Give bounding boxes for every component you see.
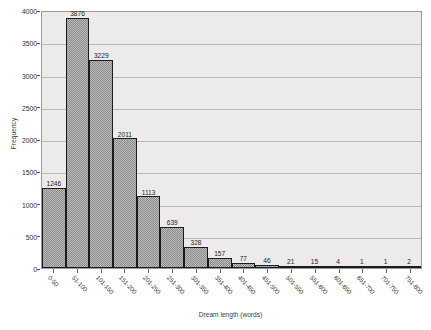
bar-value-label: 328 (190, 240, 201, 247)
y-axis-tick-mark (37, 269, 40, 270)
x-axis-label-slot: 751-800 (398, 274, 422, 316)
y-axis-tick-mark (37, 236, 40, 237)
bar-value-label: 2 (407, 259, 411, 266)
bar-value-label: 1 (384, 259, 388, 266)
x-axis-label-slot: 651-700 (351, 274, 375, 316)
bar-slot: 15 (303, 12, 327, 268)
bar-value-label: 15 (311, 259, 318, 266)
x-axis-tick-labels: 0-5051-100101-150151-200201-250251-30030… (41, 274, 422, 316)
bar[interactable]: 46 (255, 265, 279, 268)
x-axis-label-slot: 201-250 (136, 274, 160, 316)
bar-value-label: 21 (287, 259, 294, 266)
y-axis-tick-mark (37, 140, 40, 141)
bar[interactable]: 2011 (113, 138, 137, 268)
bar[interactable]: 15 (303, 266, 327, 268)
x-axis-label-slot: 101-150 (89, 274, 113, 316)
x-axis-tick-mark (267, 269, 268, 273)
x-axis-label-slot: 251-300 (160, 274, 184, 316)
x-axis-label-slot: 401-450 (232, 274, 256, 316)
y-axis-tick-label: 2000 (22, 137, 37, 144)
bar[interactable]: 328 (184, 247, 208, 268)
x-axis-label-slot: 701-750 (374, 274, 398, 316)
x-axis-title: Dream length (words) (0, 311, 431, 318)
bar-value-label: 1 (360, 259, 364, 266)
bar-value-label: 3229 (94, 53, 109, 60)
bar-slot: 157 (208, 12, 232, 268)
y-axis-tick-mark (37, 204, 40, 205)
bar-slot: 1246 (42, 12, 66, 268)
bar-value-label: 1246 (47, 181, 62, 188)
bar[interactable]: 1 (374, 266, 398, 268)
x-axis-label-slot: 151-200 (112, 274, 136, 316)
plot-area: 1246387632292011111363932815777462115411… (41, 11, 422, 269)
x-axis-tick-mark (53, 269, 54, 273)
bar-slot: 328 (184, 12, 208, 268)
bar-value-label: 639 (167, 220, 178, 227)
bar-slot: 46 (255, 12, 279, 268)
bar-value-label: 1113 (142, 190, 156, 197)
x-axis-label-slot: 301-350 (184, 274, 208, 316)
bar[interactable]: 157 (208, 258, 232, 268)
x-axis-label-slot: 551-600 (303, 274, 327, 316)
bar[interactable]: 1 (350, 266, 374, 268)
x-axis-tick-mark (315, 269, 316, 273)
x-axis-tick-mark (291, 269, 292, 273)
bar[interactable]: 1246 (42, 188, 66, 268)
bar-slot: 3876 (66, 12, 90, 268)
bar-slot: 77 (232, 12, 256, 268)
y-axis-tick-mark (37, 11, 40, 12)
y-axis-tick-label: 3000 (22, 72, 37, 79)
bar-slot: 4 (326, 12, 350, 268)
x-axis-label-slot: 601-650 (327, 274, 351, 316)
y-axis-tick-label: 2500 (22, 104, 37, 111)
x-axis-tick-mark (172, 269, 173, 273)
histogram-chart: Frequency 050010001500200025003000350040… (0, 0, 431, 330)
bar[interactable]: 1113 (137, 196, 161, 268)
x-axis-tick-mark (339, 269, 340, 273)
bar-slot: 2 (397, 12, 421, 268)
x-axis-label-slot: 0-50 (41, 274, 65, 316)
bar-value-label: 157 (214, 251, 225, 258)
bar-value-label: 2011 (118, 132, 132, 139)
bar[interactable]: 639 (160, 227, 184, 268)
x-axis-tick-mark (386, 269, 387, 273)
x-axis-tick-mark (243, 269, 244, 273)
y-axis-tick-mark (37, 43, 40, 44)
bar-value-label: 46 (263, 258, 270, 265)
x-axis-label-slot: 51-100 (65, 274, 89, 316)
y-axis-tick-label: 4000 (22, 8, 37, 15)
bar-slot: 639 (160, 12, 184, 268)
x-axis-tick-mark (148, 269, 149, 273)
x-axis-label-slot: 451-500 (255, 274, 279, 316)
bar[interactable]: 4 (326, 266, 350, 268)
y-axis-tick-mark (37, 107, 40, 108)
bar[interactable]: 21 (279, 266, 303, 268)
y-axis-tick-mark (37, 75, 40, 76)
x-axis-tick-label: 0-50 (47, 274, 60, 288)
bar[interactable]: 3229 (89, 60, 113, 268)
y-axis-tick-label: 500 (26, 233, 37, 240)
bar-slot: 1 (374, 12, 398, 268)
x-axis-tick-mark (196, 269, 197, 273)
bar[interactable]: 2 (397, 266, 421, 268)
x-axis-tick-mark (410, 269, 411, 273)
bar-slot: 3229 (89, 12, 113, 268)
y-axis-tick-label: 3500 (22, 40, 37, 47)
x-axis-tick-mark (124, 269, 125, 273)
y-axis-tick-label: 1000 (22, 201, 37, 208)
x-axis-tick-label: 751-800 (404, 274, 424, 295)
bar-slot: 2011 (113, 12, 137, 268)
x-axis-tick-label: 51-100 (71, 274, 89, 293)
bar-value-label: 77 (240, 256, 247, 263)
x-axis-tick-mark (220, 269, 221, 273)
y-axis-tick-labels: 05001000150020002500300035004000 (0, 0, 40, 330)
bar[interactable]: 3876 (66, 18, 90, 268)
x-axis-label-slot: 351-400 (208, 274, 232, 316)
bar-value-label: 4 (336, 259, 340, 266)
y-axis-tick-mark (37, 172, 40, 173)
bar-series: 1246387632292011111363932815777462115411… (42, 12, 421, 268)
x-axis-tick-mark (101, 269, 102, 273)
x-axis-tick-mark (362, 269, 363, 273)
x-axis-tick-mark (77, 269, 78, 273)
bar[interactable]: 77 (232, 263, 256, 268)
